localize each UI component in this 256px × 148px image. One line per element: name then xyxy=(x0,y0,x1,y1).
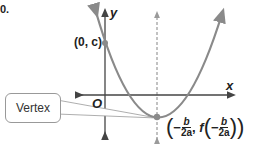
y-axis-label: y xyxy=(110,5,117,20)
minus-sign: − xyxy=(211,120,219,135)
fraction: b2a xyxy=(181,117,192,138)
numerator: b xyxy=(182,117,190,128)
origin-label: O xyxy=(92,96,102,111)
y-intercept-label: (0, c) xyxy=(74,35,102,49)
y-intercept-point xyxy=(102,40,108,46)
minus-sign: − xyxy=(173,120,181,135)
parabola-curve xyxy=(96,12,222,118)
x-axis-label: x xyxy=(226,78,233,93)
numerator: b xyxy=(220,117,228,128)
denominator: 2a xyxy=(219,128,230,138)
vertex-coordinates-label: ( − b2a , f ( − b2a )) xyxy=(166,116,244,138)
denominator: 2a xyxy=(181,128,192,138)
callout-pointer xyxy=(57,100,157,118)
fraction: b2a xyxy=(219,117,230,138)
vertex-callout: Vertex xyxy=(5,93,61,123)
vertex-point xyxy=(154,114,160,120)
